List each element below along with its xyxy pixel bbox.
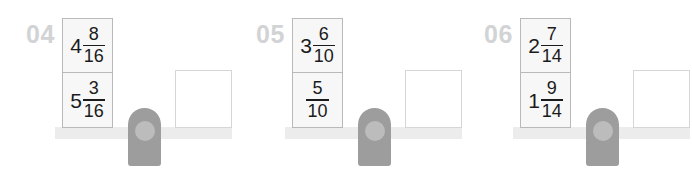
fraction: 7 14 <box>541 25 563 66</box>
problem-group-05: 05 3 6 10 5 <box>230 0 462 176</box>
fraction-denominator: 16 <box>83 47 105 66</box>
problem-number-label: 05 <box>256 22 285 47</box>
problem-group-06: 06 2 7 14 1 9 <box>458 0 690 176</box>
balance-fulcrum <box>128 108 161 166</box>
fraction-denominator: 14 <box>541 47 563 66</box>
fraction-card[interactable]: 2 7 14 <box>520 18 571 73</box>
fraction-denominator: 10 <box>313 47 335 66</box>
balance-fulcrum <box>358 108 391 166</box>
fulcrum-pivot-circle <box>365 121 385 141</box>
fraction-card-stack: 4 8 16 5 3 16 <box>62 18 113 128</box>
mixed-number: 1 9 14 <box>528 79 563 120</box>
fraction-numerator: 8 <box>88 25 100 44</box>
balance-fulcrum <box>586 108 619 166</box>
answer-input-box[interactable] <box>175 70 232 128</box>
whole-number: 4 <box>70 35 82 56</box>
fraction-numerator: 5 <box>311 79 323 98</box>
fraction-balance-worksheet: 04 4 8 16 5 3 <box>0 0 692 176</box>
fraction: 6 10 <box>313 25 335 66</box>
whole-number: 1 <box>528 90 540 111</box>
fraction-card[interactable]: 3 6 10 <box>292 18 343 73</box>
problem-group-04: 04 4 8 16 5 3 <box>0 0 232 176</box>
fraction: 5 10 <box>306 79 328 120</box>
fraction: 8 16 <box>83 25 105 66</box>
fraction-denominator: 16 <box>83 102 105 121</box>
fulcrum-pivot-circle <box>593 121 613 141</box>
whole-number: 2 <box>528 35 540 56</box>
mixed-number: 4 8 16 <box>70 25 105 66</box>
whole-number: 5 <box>70 90 82 111</box>
fraction: 3 16 <box>83 79 105 120</box>
fraction-numerator: 6 <box>318 25 330 44</box>
answer-input-box[interactable] <box>633 70 690 128</box>
fulcrum-pivot-circle <box>135 121 155 141</box>
mixed-number: 3 6 10 <box>300 25 335 66</box>
problem-number-label: 06 <box>484 22 513 47</box>
answer-input-box[interactable] <box>405 70 462 128</box>
fraction-numerator: 3 <box>88 79 100 98</box>
fraction-numerator: 9 <box>546 79 558 98</box>
mixed-number: 5 3 16 <box>70 79 105 120</box>
fraction-denominator: 10 <box>306 102 328 121</box>
fraction-denominator: 14 <box>541 102 563 121</box>
problem-number-label: 04 <box>26 22 55 47</box>
mixed-number: 5 10 <box>306 79 328 120</box>
fraction-card[interactable]: 1 9 14 <box>520 73 571 128</box>
fraction-numerator: 7 <box>546 25 558 44</box>
fraction-card[interactable]: 5 10 <box>292 73 343 128</box>
fraction-card-stack: 2 7 14 1 9 14 <box>520 18 571 128</box>
fraction-card[interactable]: 4 8 16 <box>62 18 113 73</box>
fraction-card[interactable]: 5 3 16 <box>62 73 113 128</box>
fraction: 9 14 <box>541 79 563 120</box>
mixed-number: 2 7 14 <box>528 25 563 66</box>
fraction-card-stack: 3 6 10 5 10 <box>292 18 343 128</box>
whole-number: 3 <box>300 35 312 56</box>
